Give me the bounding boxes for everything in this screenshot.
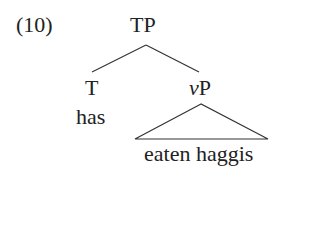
- terminal-has: has: [76, 106, 105, 128]
- terminal-eaten-haggis: eaten haggis: [144, 143, 253, 165]
- node-vp: vP: [189, 77, 211, 99]
- node-vp-rest: P: [199, 75, 211, 100]
- node-t: T: [85, 77, 98, 99]
- node-vp-italic: v: [189, 75, 199, 100]
